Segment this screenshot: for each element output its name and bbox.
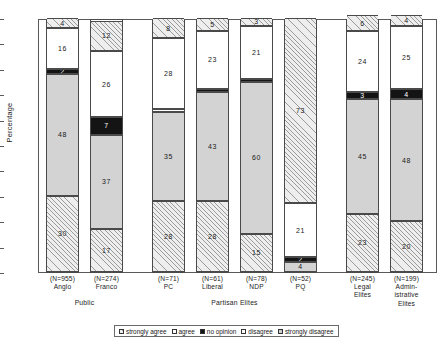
bar-segment-legal-elites-3[interactable]: 24 <box>347 31 378 92</box>
bar-segment-pq-0[interactable]: 4 <box>285 262 316 272</box>
bar-segment-ndp-2[interactable] <box>241 79 272 82</box>
x-axis-label-n: (N=274) <box>78 275 136 283</box>
bar-segment-ndp-3[interactable]: 21 <box>241 26 272 79</box>
bar-segment-value: 30 <box>58 230 67 237</box>
x-axis-label-franco: (N=274)Franco <box>78 275 136 291</box>
legend-label: strongly agree <box>126 328 167 335</box>
legend-item-strongly-disagree[interactable]: strongly disagree <box>278 328 334 335</box>
bar-segment-legal-elites-0[interactable]: 23 <box>347 214 378 272</box>
bar-segment-value: 4 <box>404 91 409 98</box>
bar-segment-value: 8 <box>166 25 171 32</box>
bar-segment-franco-4[interactable]: 12 <box>91 21 122 51</box>
bar-segment-anglo-0[interactable]: 30 <box>47 196 78 272</box>
legend-label: agree <box>179 328 195 335</box>
bar-segment-franco-3[interactable]: 26 <box>91 51 122 117</box>
legend-label: strongly disagree <box>285 328 334 335</box>
group-label-0: Public <box>26 299 143 307</box>
bar-segment-legal-elites-2[interactable]: 3 <box>347 92 378 100</box>
stacked-bar[interactable]: 30482164 <box>46 19 79 273</box>
bar-group-liberal[interactable]: 2843235 <box>196 19 229 273</box>
bar-segment-value: 15 <box>252 249 261 256</box>
bar-segment-value: 24 <box>358 58 367 65</box>
chart-root: 0102030405060708090100 Percentage 304821… <box>0 0 444 355</box>
bar-segment-pc-2[interactable] <box>153 109 184 112</box>
legend-label: no opinion <box>207 328 237 335</box>
bar-segment-liberal-0[interactable]: 28 <box>197 201 228 272</box>
bar-segment-value: 21 <box>252 49 261 56</box>
bar-segment-administrative-elites-4[interactable]: 4 <box>391 15 422 25</box>
legend-item-disagree[interactable]: disagree <box>241 328 273 335</box>
bar-segment-value: 4 <box>404 17 409 24</box>
bar-segment-value: 3 <box>360 92 365 99</box>
bar-segment-value: 7 <box>104 122 109 129</box>
bar-segment-administrative-elites-1[interactable]: 48 <box>391 99 422 221</box>
bar-group-administrative-elites[interactable]: 20484254 <box>390 19 423 273</box>
bar-segment-liberal-2[interactable] <box>197 89 228 92</box>
bar-segment-administrative-elites-2[interactable]: 4 <box>391 89 422 99</box>
bar-segment-value: 16 <box>58 45 67 52</box>
bar-segment-value: 26 <box>102 81 111 88</box>
y-axis-tick-mark <box>0 273 4 274</box>
x-axis-label-n: (N=52) <box>272 275 330 283</box>
bar-segment-value: 23 <box>208 56 217 63</box>
stacked-bar[interactable]: 2835288 <box>152 19 185 273</box>
bar-segment-value: 12 <box>102 32 111 39</box>
bar-segment-value: 37 <box>102 178 111 185</box>
bar-group-pq[interactable]: 422173 <box>284 19 317 273</box>
bar-segment-legal-elites-4[interactable]: 6 <box>347 15 378 30</box>
legend-swatch-icon <box>119 329 124 334</box>
bar-segment-anglo-1[interactable]: 48 <box>47 74 78 196</box>
bar-segment-liberal-3[interactable]: 23 <box>197 31 228 89</box>
bar-group-anglo[interactable]: 30482164 <box>46 19 79 273</box>
x-axis-group-labels: PublicPartisan Elites <box>38 299 437 317</box>
bar-segment-anglo-3[interactable]: 16 <box>47 28 78 69</box>
legend-item-no-opinion[interactable]: no opinion <box>200 328 237 335</box>
stacked-bar[interactable]: 23453246 <box>346 19 379 273</box>
bar-segment-anglo-2[interactable]: 2 <box>47 69 78 74</box>
legend-item-strongly-agree[interactable]: strongly agree <box>119 328 167 335</box>
bar-segment-liberal-1[interactable]: 43 <box>197 92 228 201</box>
bar-group-pc[interactable]: 2835288 <box>152 19 185 273</box>
bar-segment-value: 28 <box>208 233 217 240</box>
bar-segment-pq-2[interactable]: 21 <box>285 203 316 256</box>
x-axis-label-n: (N=199) <box>378 275 436 283</box>
bar-segment-ndp-0[interactable]: 15 <box>241 234 272 272</box>
bar-segment-administrative-elites-3[interactable]: 25 <box>391 26 422 90</box>
bar-segment-franco-0[interactable]: 17 <box>91 229 122 272</box>
bar-segment-pq-1[interactable]: 2 <box>285 257 316 262</box>
bar-segment-administrative-elites-0[interactable]: 20 <box>391 221 422 272</box>
bar-segment-pc-4[interactable]: 8 <box>153 18 184 38</box>
bar-segment-liberal-4[interactable]: 5 <box>197 18 228 31</box>
bar-segment-pc-1[interactable]: 35 <box>153 112 184 201</box>
bar-segment-value: 4 <box>60 20 65 27</box>
bar-segment-anglo-4[interactable]: 4 <box>47 18 78 28</box>
y-axis-tick-mark <box>0 222 4 223</box>
y-axis-tick-mark <box>0 121 4 122</box>
bar-segment-pq-3[interactable]: 73 <box>285 18 316 203</box>
stacked-bar[interactable]: 422173 <box>284 19 317 273</box>
legend-item-agree[interactable]: agree <box>172 328 195 335</box>
stacked-bar[interactable]: 2843235 <box>196 19 229 273</box>
bar-segment-value: 5 <box>210 21 215 28</box>
bar-group-ndp[interactable]: 1560213 <box>240 19 273 273</box>
bar-segment-value: 25 <box>402 54 411 61</box>
bar-segment-legal-elites-1[interactable]: 45 <box>347 99 378 213</box>
bar-segment-value: 60 <box>252 154 261 161</box>
bar-segment-pc-3[interactable]: 28 <box>153 38 184 109</box>
group-label-1: Partisan Elites <box>132 299 337 307</box>
bar-segment-pc-0[interactable]: 28 <box>153 201 184 272</box>
bar-segment-ndp-4[interactable]: 3 <box>241 18 272 26</box>
stacked-bar[interactable]: 20484254 <box>390 19 423 273</box>
x-axis-label-name: Admin- <box>378 283 436 291</box>
stacked-bar[interactable]: 1560213 <box>240 19 273 273</box>
legend-swatch-icon <box>278 329 283 334</box>
bar-group-franco[interactable]: 173772612 <box>90 19 123 273</box>
stacked-bar[interactable]: 173772612 <box>90 19 123 273</box>
bar-group-legal-elites[interactable]: 23453246 <box>346 19 379 273</box>
bar-segment-ndp-1[interactable]: 60 <box>241 82 272 234</box>
bar-segment-franco-1[interactable]: 37 <box>91 135 122 229</box>
y-axis-tick-mark <box>0 44 4 45</box>
y-axis-tick-mark <box>0 95 4 96</box>
bar-segment-value: 6 <box>360 20 365 27</box>
bar-segment-franco-2[interactable]: 7 <box>91 117 122 135</box>
